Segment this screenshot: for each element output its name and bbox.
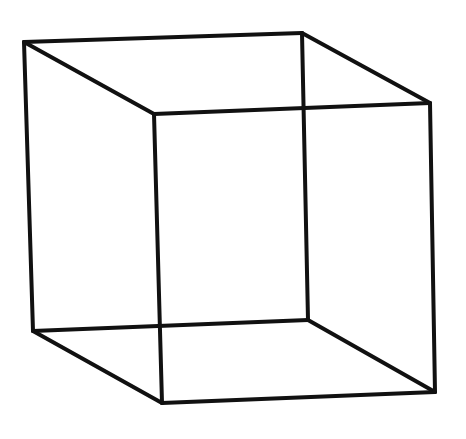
cube-edge-back-top-left-to-back-top-right xyxy=(24,33,302,42)
cube-edge-front-top-left-to-front-bottom-left xyxy=(154,114,162,403)
cube-edge-back-bottom-left-to-back-bottom-right xyxy=(33,320,308,331)
cube-edges xyxy=(24,33,435,403)
cube-edge-front-top-left-to-front-top-right xyxy=(154,103,430,114)
cube-edge-back-top-right-to-front-top-right xyxy=(302,33,430,103)
cube-edge-back-bottom-right-to-front-bottom-right xyxy=(308,320,435,392)
cube-edge-front-bottom-left-to-front-bottom-right xyxy=(162,392,435,403)
cube-edge-back-top-right-to-back-bottom-right xyxy=(302,33,308,320)
cube-edge-front-top-right-to-front-bottom-right xyxy=(430,103,435,392)
cube-edge-back-bottom-left-to-front-bottom-left xyxy=(33,331,162,403)
cube-edge-back-top-left-to-front-top-left xyxy=(24,42,154,114)
necker-cube-diagram xyxy=(0,0,466,439)
cube-edge-back-top-left-to-back-bottom-left xyxy=(24,42,33,331)
